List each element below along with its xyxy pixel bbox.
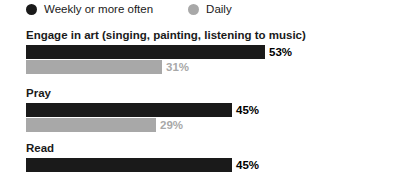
bar-value-weekly: 45%: [236, 158, 259, 172]
bar-group-pray: Pray 45% 29%: [26, 87, 406, 132]
bar-row-weekly: 45%: [26, 103, 406, 117]
legend-label-weekly-or-more-often: Weekly or more often: [44, 3, 153, 16]
bar-value-daily: 29%: [160, 118, 183, 132]
legend-label-daily: Daily: [206, 3, 232, 16]
bar-chart: Weekly or more often Daily Engage in art…: [0, 0, 406, 175]
bar-weekly: [26, 158, 232, 172]
legend-item-daily: Daily: [188, 3, 232, 16]
bar-daily: [26, 60, 162, 74]
bar-row-daily: 31%: [26, 60, 406, 74]
bar-group-label: Read: [26, 142, 406, 155]
bar-row-weekly: 45%: [26, 158, 406, 172]
bar-weekly: [26, 103, 232, 117]
bar-row-daily: 29%: [26, 118, 406, 132]
bar-value-weekly: 45%: [236, 103, 259, 117]
bar-value-daily: 31%: [166, 60, 189, 74]
legend-dot-light-icon: [188, 4, 199, 15]
legend-dot-dark-icon: [26, 4, 37, 15]
bar-weekly: [26, 45, 265, 59]
bar-value-weekly: 53%: [269, 45, 292, 59]
chart-legend: Weekly or more often Daily: [26, 2, 232, 17]
bar-group-label: Engage in art (singing, painting, listen…: [26, 29, 406, 42]
bar-daily: [26, 118, 156, 132]
legend-item-weekly-or-more-often: Weekly or more often: [26, 3, 153, 16]
bar-group-label: Pray: [26, 87, 406, 100]
bar-row-weekly: 53%: [26, 45, 406, 59]
bar-group-engage-in-art: Engage in art (singing, painting, listen…: [26, 29, 406, 74]
bar-group-read: Read 45%: [26, 142, 406, 172]
